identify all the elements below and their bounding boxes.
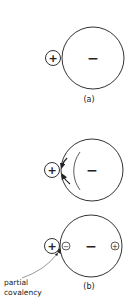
annotation-line2: covalency [4,288,42,297]
panel-b: + − − + (b) partial covalency [4,215,122,297]
cation-sign: + [47,164,56,177]
cation-sign: + [47,240,56,253]
induced-positive-sign: + [112,243,118,251]
induced-negative-sign: − [63,243,69,251]
caption-b: (b) [83,282,94,291]
annotation-line1: partial [4,278,28,287]
panel-middle: + − [45,139,124,201]
polarization-diagram: + − (a) + − + − − + (b) partial covalenc… [0,0,131,307]
cation-sign: + [48,52,57,65]
anion-sign: − [86,162,98,178]
panel-a: + − (a) [46,27,125,104]
caption-a: (a) [83,95,94,104]
distortion-arc [74,152,80,190]
anion-sign: − [87,50,99,66]
partial-covalency-pointer [22,254,57,278]
anion-sign: − [85,238,97,254]
